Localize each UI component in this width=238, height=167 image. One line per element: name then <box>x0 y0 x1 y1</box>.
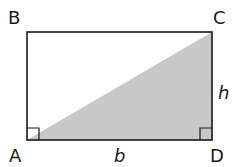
base-label-b: b <box>114 145 125 166</box>
rectangle-triangle-diagram: B C A D b h <box>0 0 238 167</box>
vertex-label-a: A <box>9 145 22 166</box>
vertex-label-d: D <box>210 145 224 166</box>
height-label-h: h <box>218 82 229 103</box>
shaded-triangle-acd <box>27 32 212 140</box>
vertex-label-c: C <box>213 7 226 28</box>
vertex-label-b: B <box>8 7 20 28</box>
